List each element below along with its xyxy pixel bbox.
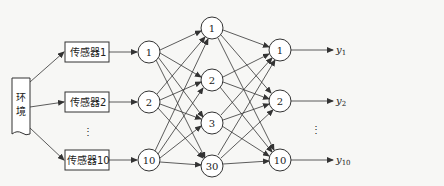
sensor-label-1: 传感器1 — [70, 46, 106, 58]
sensor-box-10: 传感器10 — [65, 150, 110, 170]
sensor-label-10: 传感器10 — [67, 154, 110, 166]
input-node-label: 2 — [146, 97, 152, 108]
hidden-node-label: 30 — [206, 161, 219, 172]
neural-network-diagram: 环 境 传感器1 传感器2 传感器10 ⋮ — [0, 0, 444, 186]
hidden-node-label: 3 — [209, 118, 215, 129]
sensor-ellipsis: ⋮ — [83, 126, 93, 137]
environment-label-1: 环 — [16, 92, 26, 103]
output-node-2: 2 — [269, 90, 291, 112]
environment-box: 环 境 — [12, 78, 30, 135]
edges-hidden-output — [218, 30, 275, 164]
output-node-label: 1 — [277, 45, 283, 56]
sensor-box-1: 传感器1 — [65, 42, 109, 62]
input-node-2: 2 — [138, 91, 160, 113]
hidden-node-1: 1 — [201, 17, 223, 39]
output-y1: y1 — [335, 44, 346, 57]
output-node-label: 10 — [274, 155, 287, 166]
output-node-label: 2 — [277, 96, 283, 107]
sensor-label-2: 传感器2 — [70, 96, 106, 108]
environment-label-2: 境 — [16, 105, 26, 117]
output-ellipsis: ⋮ — [311, 124, 321, 135]
hidden-node-3: 3 — [201, 112, 223, 134]
output-node-1: 1 — [269, 39, 291, 61]
edge-env-s2 — [30, 102, 64, 107]
input-node-1: 1 — [138, 41, 160, 63]
input-node-label: 10 — [143, 155, 156, 166]
sensor-box-2: 传感器2 — [65, 92, 109, 112]
edge-env-s1 — [30, 52, 64, 82]
output-y2: y2 — [335, 95, 346, 108]
hidden-node-label: 2 — [209, 75, 215, 86]
hidden-node-2: 2 — [201, 69, 223, 91]
hidden-node-30: 30 — [201, 155, 223, 177]
input-node-10: 10 — [138, 149, 160, 171]
edge-env-s10 — [30, 128, 64, 160]
input-node-label: 1 — [146, 47, 152, 58]
output-y10: y10 — [335, 154, 351, 167]
hidden-node-label: 1 — [209, 23, 215, 34]
edges-input-hidden — [155, 31, 208, 165]
output-node-10: 10 — [269, 149, 291, 171]
